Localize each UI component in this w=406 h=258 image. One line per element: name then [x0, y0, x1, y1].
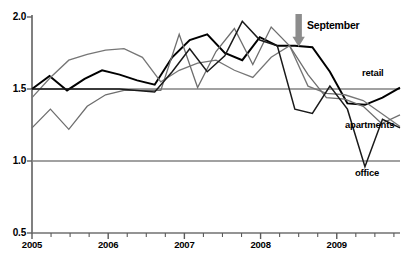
x-tick-label-2007: 2007 — [162, 240, 206, 250]
chart-container: 2.01.51.00.5 20052006200720082009 retail… — [0, 0, 406, 258]
annotation-label-september: September — [307, 20, 359, 31]
series-label-retail: retail — [362, 68, 384, 78]
y-tick-label-1.0: 1.0 — [0, 156, 26, 166]
x-tick-label-2005: 2005 — [10, 240, 54, 250]
y-tick-label-2.0: 2.0 — [0, 12, 26, 22]
data-series-group — [32, 21, 400, 166]
x-tick-label-2008: 2008 — [239, 240, 283, 250]
series-label-apartments: apartments — [345, 120, 394, 130]
x-tick-label-2009: 2009 — [315, 240, 359, 250]
series-line-apartments — [32, 46, 400, 127]
september-arrow-shaft — [295, 14, 301, 38]
y-tick-label-0.5: 0.5 — [0, 228, 26, 238]
x-tick-label-2006: 2006 — [86, 240, 130, 250]
y-tick-label-1.5: 1.5 — [0, 84, 26, 94]
annotation-arrow-group — [292, 14, 304, 47]
series-label-office: office — [355, 168, 379, 178]
